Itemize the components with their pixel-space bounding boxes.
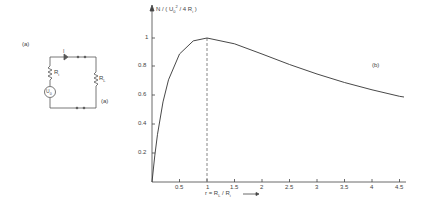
chart-axes: [150, 5, 406, 196]
x-tick-label: 3.5: [340, 184, 348, 190]
y-tick-label: 0.4: [138, 120, 146, 126]
panel-b-label: (b): [372, 62, 379, 68]
x-tick-label: 1.5: [230, 184, 238, 190]
x-tick-label: 3: [315, 184, 318, 190]
load-resistor-label: RL: [99, 75, 106, 83]
x-tick-label: 1: [206, 184, 209, 190]
circuit-diagram: [45, 54, 99, 109]
internal-resistor-label: Ri: [54, 69, 59, 77]
x-tick-label: 4.5: [395, 184, 403, 190]
current-label: I: [63, 48, 64, 54]
power-curve: [152, 38, 404, 182]
source-label: U0: [46, 88, 52, 96]
panel-a-sublabel: (a): [101, 98, 108, 104]
x-axis-label: r = RL / Ri: [205, 190, 231, 198]
x-tick-label: 2: [260, 184, 263, 190]
y-tick-label: 0.2: [138, 149, 146, 155]
internal-resistor-icon: [48, 66, 52, 80]
figure-canvas: [0, 0, 425, 209]
panel-a-label: (a): [22, 41, 29, 47]
x-tick-label: 4: [370, 184, 373, 190]
y-axis-label: N / ( U02 / 4 Ri ): [156, 4, 197, 14]
y-tick-label: 0.6: [138, 91, 146, 97]
x-tick-label: 0.5: [175, 184, 183, 190]
x-tick-label: 2.5: [285, 184, 293, 190]
y-tick-label: 1: [145, 34, 148, 40]
load-resistor-icon: [94, 72, 98, 86]
y-tick-label: 0.8: [138, 62, 146, 68]
current-arrow-icon: [64, 54, 68, 60]
